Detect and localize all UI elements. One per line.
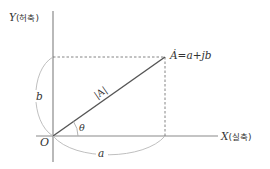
real-component-label: a	[98, 147, 104, 159]
imag-component-label: b	[36, 90, 43, 102]
real-component-arc	[53, 136, 165, 155]
phasor-vector	[53, 57, 165, 136]
complex-plane-diagram: Y(허축) X(실축) O Ȧ=a+jb |A| θ b a	[0, 0, 270, 169]
origin-label: O	[40, 136, 49, 149]
x-axis-label: X(실축)	[220, 130, 252, 142]
angle-arc	[74, 122, 79, 136]
y-axis-label: Y(허축)	[9, 11, 39, 23]
magnitude-label: |A|	[92, 84, 110, 101]
angle-label: θ	[79, 122, 85, 133]
phasor-label: Ȧ=a+jb	[169, 48, 212, 61]
